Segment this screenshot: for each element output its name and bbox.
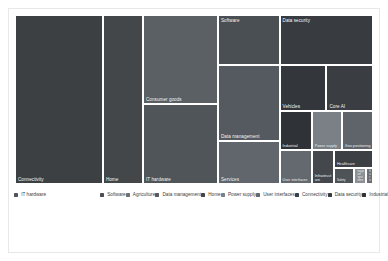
legend-item[interactable]: Connectivity bbox=[295, 189, 328, 200]
legend-item[interactable]: Home bbox=[201, 189, 221, 200]
legend-item-label: Data security bbox=[335, 192, 362, 197]
treemap-cell[interactable]: 3D support systems bbox=[354, 168, 366, 184]
legend-item-label: Home bbox=[208, 192, 221, 197]
treemap-cell[interactable]: Infrastructure bbox=[312, 150, 334, 184]
treemap-cell-label: Vehicles bbox=[283, 104, 325, 109]
chart-panel: ConnectivityHomeConsumer goodsIT hardwar… bbox=[8, 8, 380, 253]
treemap-cell-label: Data management bbox=[221, 134, 278, 139]
treemap-cell[interactable]: Power supply bbox=[312, 111, 342, 150]
treemap-cell[interactable]: User interfaces bbox=[280, 150, 312, 184]
treemap-cell-label: Data security bbox=[283, 18, 371, 23]
legend-item-label: Software bbox=[107, 192, 126, 197]
legend-item-label: Data management bbox=[162, 192, 201, 197]
legend-item-label: User interfaces bbox=[263, 192, 295, 197]
legend-item[interactable]: Software bbox=[100, 189, 126, 200]
treemap-cell[interactable]: Geo positioning bbox=[342, 111, 373, 150]
legend-item-label: Industrial bbox=[369, 192, 388, 197]
legend-swatch-icon bbox=[221, 193, 225, 197]
treemap-cell[interactable]: Home bbox=[103, 15, 143, 184]
legend-item-label: Connectivity bbox=[302, 192, 328, 197]
treemap-cell[interactable]: Consumer goods bbox=[143, 15, 218, 104]
legend-item[interactable]: Healthcare bbox=[0, 189, 14, 200]
treemap-cell-label: Infrastructure bbox=[315, 174, 332, 182]
treemap-cell[interactable]: Software bbox=[218, 15, 280, 65]
treemap-cell[interactable]: Data management bbox=[218, 65, 280, 141]
legend-item-label: Agriculture bbox=[133, 192, 155, 197]
treemap-cell-label: Industrial bbox=[283, 144, 310, 148]
legend-item-label: IT hardware bbox=[21, 192, 46, 197]
treemap-cell-label: Power supply bbox=[315, 144, 340, 148]
treemap-cell[interactable]: Core AI bbox=[326, 65, 373, 111]
legend-item[interactable]: Industrial bbox=[362, 189, 388, 200]
legend-item[interactable]: Data management bbox=[155, 189, 201, 200]
legend-swatch-icon bbox=[100, 193, 104, 197]
treemap-cell-label: Software bbox=[221, 18, 278, 23]
treemap-cell[interactable]: Vehicles bbox=[280, 65, 327, 111]
treemap-cell-label: Consumer goods bbox=[146, 97, 216, 102]
legend-swatch-icon bbox=[14, 193, 18, 197]
legend-swatch-icon bbox=[126, 193, 130, 197]
legend-swatch-icon bbox=[362, 193, 366, 197]
legend-item[interactable]: IT hardware bbox=[14, 189, 100, 200]
treemap-cell[interactable]: Services bbox=[218, 141, 280, 184]
treemap-cell-label: Connectivity bbox=[18, 177, 101, 182]
legend-item[interactable]: User interfaces bbox=[256, 189, 295, 200]
treemap-cell[interactable]: Safety bbox=[334, 168, 354, 184]
treemap-cell-label: Services bbox=[221, 177, 278, 182]
treemap-cell[interactable]: Connectivity bbox=[15, 15, 103, 184]
treemap-cell[interactable]: Agriculture bbox=[366, 168, 373, 184]
treemap-cell-label: Core AI bbox=[329, 104, 371, 109]
legend-item[interactable]: Power supply bbox=[221, 189, 256, 200]
treemap-cell-label: Geo positioning bbox=[345, 144, 371, 148]
legend-swatch-icon bbox=[295, 193, 299, 197]
chart-legend: 3D support systemsCore AIHealthcareIT ha… bbox=[15, 189, 373, 247]
legend-swatch-icon bbox=[256, 193, 260, 197]
treemap-cell[interactable]: Industrial bbox=[280, 111, 312, 150]
treemap-cell[interactable]: Healthcare bbox=[334, 150, 373, 168]
treemap-cell-label: User interfaces bbox=[283, 178, 310, 182]
legend-item[interactable]: Data security bbox=[328, 189, 363, 200]
legend-item[interactable]: Agriculture bbox=[126, 189, 156, 200]
treemap-cell[interactable]: Data security bbox=[280, 15, 373, 65]
legend-swatch-icon bbox=[328, 193, 332, 197]
treemap-cell-label: Home bbox=[106, 177, 141, 182]
treemap-cell-label: Healthcare bbox=[337, 162, 371, 166]
legend-swatch-icon bbox=[201, 193, 205, 197]
treemap-cell-label: 3D support systems bbox=[357, 168, 364, 182]
treemap-plot: ConnectivityHomeConsumer goodsIT hardwar… bbox=[15, 15, 373, 184]
treemap-cell[interactable]: IT hardware bbox=[143, 104, 218, 184]
treemap-cell-label: IT hardware bbox=[146, 177, 216, 182]
legend-swatch-icon bbox=[155, 193, 159, 197]
treemap-cell-label: Agriculture bbox=[369, 168, 371, 182]
screenshot-root: ConnectivityHomeConsumer goodsIT hardwar… bbox=[0, 0, 388, 261]
treemap-cell-label: Safety bbox=[337, 179, 352, 182]
legend-item-label: Power supply bbox=[228, 192, 256, 197]
